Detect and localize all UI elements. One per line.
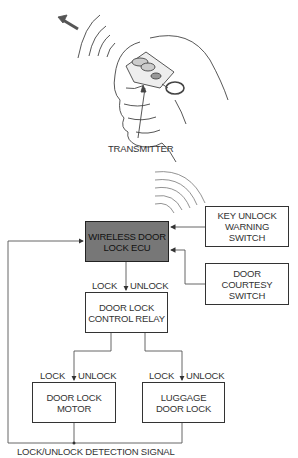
transmitter-label: TRANSMITTER bbox=[108, 143, 173, 154]
luggage-line-2: DOOR LOCK bbox=[156, 403, 211, 414]
relay-line-1: DOOR LOCK bbox=[99, 302, 154, 313]
motor-line-1: DOOR LOCK bbox=[46, 392, 101, 403]
key-unlock-line-3: SWITCH bbox=[229, 232, 265, 243]
courtesy-line-3: SWITCH bbox=[229, 290, 265, 301]
transmitter-hand-illustration bbox=[58, 15, 228, 162]
relay-line-2: CONTROL RELAY bbox=[88, 313, 165, 324]
door-lock-motor-block: DOOR LOCK MOTOR bbox=[32, 382, 116, 423]
courtesy-line-1: DOOR bbox=[233, 268, 261, 279]
door-lock-control-relay-block: DOOR LOCK CONTROL RELAY bbox=[85, 292, 168, 333]
luggage-lock-label: LOCK bbox=[149, 370, 174, 381]
motor-unlock-label: UNLOCK bbox=[78, 370, 116, 381]
ecu-unlock-label: UNLOCK bbox=[130, 280, 168, 291]
key-unlock-line-2: WARNING bbox=[225, 221, 269, 232]
ecu-lock-label: LOCK bbox=[92, 280, 117, 291]
ecu-line-1: WIRELESS DOOR bbox=[88, 231, 166, 242]
ecu-signal-waves-icon bbox=[155, 172, 205, 213]
detection-signal-label: LOCK/UNLOCK DETECTION SIGNAL bbox=[17, 446, 175, 457]
luggage-line-1: LUGGAGE bbox=[161, 392, 207, 403]
door-courtesy-switch-block: DOOR COURTESY SWITCH bbox=[205, 263, 289, 305]
motor-lock-label: LOCK bbox=[40, 370, 65, 381]
courtesy-line-2: COURTESY bbox=[221, 279, 272, 290]
motor-line-2: MOTOR bbox=[57, 403, 91, 414]
luggage-unlock-label: UNLOCK bbox=[186, 370, 224, 381]
key-unlock-warning-switch-block: KEY UNLOCK WARNING SWITCH bbox=[205, 206, 289, 247]
luggage-door-lock-block: LUGGAGE DOOR LOCK bbox=[142, 382, 225, 423]
wireless-door-lock-ecu-block: WIRELESS DOOR LOCK ECU bbox=[85, 221, 169, 262]
ecu-line-2: LOCK ECU bbox=[104, 242, 151, 253]
key-unlock-line-1: KEY UNLOCK bbox=[217, 210, 276, 221]
